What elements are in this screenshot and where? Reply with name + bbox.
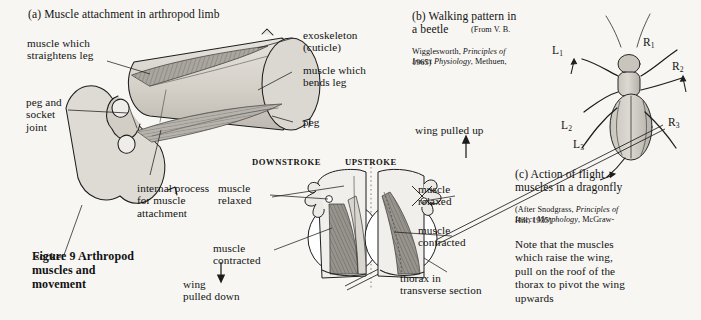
leg-label-L1-index: 1 — [559, 49, 563, 58]
label-wing-pulled-up: wing pulled up — [415, 124, 484, 136]
figure-arthropod-muscles-and-movement: (a) Muscle attachment in arthropod limb … — [0, 0, 701, 320]
label-peg: peg — [303, 116, 319, 128]
panel-c-citation-line-3: Hill, 1935) — [515, 216, 551, 225]
leg-label-R2-index: 2 — [680, 65, 684, 74]
leg-label-R2-letter: R — [672, 60, 680, 72]
label-upstroke-muscle-relaxed: muscle relaxed — [418, 183, 452, 208]
leg-label-R1: R1 — [643, 24, 655, 52]
leg-label-L2: L2 — [561, 107, 572, 135]
leg-label-L3: L3 — [573, 126, 584, 154]
panel-c-citation-plain-2: , McGraw- — [578, 215, 614, 224]
panel-b-citation-lead: (From V. B. — [471, 25, 510, 34]
leg-label-R1-index: 1 — [651, 41, 655, 50]
label-downstroke-muscle-contracted: muscle contracted — [213, 242, 261, 267]
label-wing-pulled-down: wing pulled down — [183, 278, 240, 303]
leg-label-R3: R3 — [668, 104, 680, 132]
label-muscle-straightens-leg: muscle which straightens leg — [27, 37, 93, 62]
heading-downstroke: DOWNSTROKE — [252, 156, 321, 168]
leg-label-R1-letter: R — [643, 36, 651, 48]
heading-upstroke: UPSTROKE — [345, 156, 397, 168]
label-muscle-bends-leg: muscle which bends leg — [303, 64, 366, 89]
leg-label-L2-index: 2 — [568, 124, 572, 133]
label-downstroke-muscle-relaxed: muscle relaxed — [218, 182, 252, 207]
leg-label-L3-index: 3 — [580, 143, 584, 152]
label-upstroke-muscle-contracted: muscle contracted — [418, 224, 466, 249]
leg-label-R3-letter: R — [668, 116, 676, 128]
leg-label-R3-index: 3 — [676, 121, 680, 130]
panel-c-heading: (c) Action of flight muscles in a dragon… — [515, 168, 622, 194]
label-peg-and-socket-joint: peg and socket joint — [26, 96, 62, 133]
label-thorax-transverse-section: thorax in transverse section — [400, 272, 482, 297]
panel-a-heading: (a) Muscle attachment in arthropod limb — [28, 8, 220, 21]
figure-caption: Figure 9 Arthropod muscles and movement — [32, 249, 134, 292]
panel-c-note: Note that the muscles which raise the wi… — [515, 238, 625, 305]
label-internal-process: internal process for muscle attachment — [137, 182, 209, 219]
panel-b-beetle-drawing — [582, 14, 682, 177]
panel-a-limb-drawing — [66, 29, 320, 203]
panel-b-citation-plain-2: , Methuen, — [471, 57, 507, 66]
label-exoskeleton: exoskeleton (cuticle) — [303, 29, 358, 54]
leg-label-R2: R2 — [672, 48, 684, 76]
panel-b-citation-line-3: 1965) — [412, 58, 431, 67]
leg-label-L1: L1 — [552, 32, 563, 60]
